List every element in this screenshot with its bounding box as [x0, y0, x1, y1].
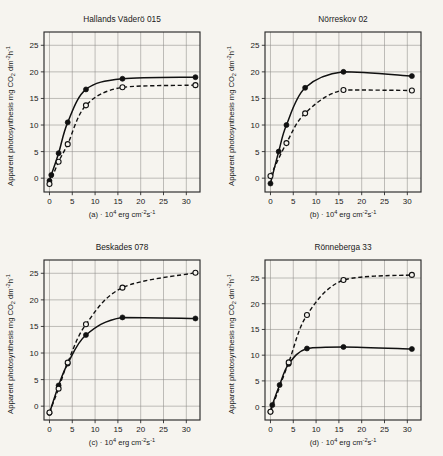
y-tick-label: 5	[34, 376, 39, 385]
data-point	[409, 347, 414, 352]
y-tick-label: 5	[34, 148, 39, 157]
y-axis-label: Apparent photosynthesis mg CO2 dm-2h-1	[226, 274, 237, 414]
x-tick-label: 10	[312, 425, 321, 434]
y-tick-label: 15	[30, 94, 39, 103]
x-tick-label: 5	[70, 425, 75, 434]
y-tick-label: 20	[251, 68, 260, 77]
data-point	[277, 383, 282, 388]
data-point	[193, 316, 198, 321]
y-tick-label: 20	[30, 296, 39, 305]
y-tick-label: 0	[255, 403, 260, 412]
y-tick-label: 10	[251, 121, 260, 130]
data-point	[341, 278, 346, 283]
data-point	[83, 332, 88, 337]
panel-title: Nörreskov 02	[318, 14, 368, 24]
y-axis-label: Apparent photosynthesis mg CO2 dm-2h-1	[226, 46, 237, 186]
x-tick-label: 20	[357, 197, 366, 206]
y-tick-label: 5	[255, 377, 260, 386]
y-tick-label: 5	[255, 148, 260, 157]
data-point	[56, 151, 61, 156]
data-point	[56, 159, 61, 164]
x-tick-label: 25	[159, 425, 168, 434]
x-tick-label: 25	[159, 197, 168, 206]
panel-title: Rönneberga 33	[314, 242, 372, 252]
panel-background	[221, 228, 442, 456]
chart-svg-a: Hallands Väderö 015051015202505101520253…	[0, 0, 221, 228]
panel-title: Hallands Väderö 015	[83, 14, 161, 24]
x-tick-label: 10	[91, 197, 100, 206]
data-point	[304, 346, 309, 351]
x-tick-label: 5	[291, 425, 296, 434]
x-tick-label: 30	[403, 425, 412, 434]
data-point	[83, 87, 88, 92]
data-point	[341, 69, 346, 74]
panel-background	[221, 0, 442, 228]
photosynthesis-figure: Hallands Väderö 015051015202505101520253…	[0, 0, 443, 456]
data-point	[83, 322, 88, 327]
data-point	[268, 181, 273, 186]
chart-panel-a: Hallands Väderö 015051015202505101520253…	[0, 0, 221, 228]
y-tick-label: 20	[30, 68, 39, 77]
y-tick-label: 10	[30, 121, 39, 130]
data-point	[268, 174, 273, 179]
y-tick-label: 15	[251, 94, 260, 103]
y-tick-label: 0	[255, 174, 260, 183]
chart-panel-d: Rönneberga 330510152025051015202530Appar…	[221, 228, 442, 456]
y-axis-label: Apparent photosynthesis mg CO2 dm-2h-1	[5, 274, 16, 414]
x-tick-label: 0	[268, 425, 273, 434]
x-tick-label: 20	[357, 425, 366, 434]
data-point	[193, 75, 198, 80]
data-point	[341, 87, 346, 92]
data-point	[193, 270, 198, 275]
data-point	[120, 76, 125, 81]
panel-background	[0, 0, 221, 228]
x-tick-label: 25	[380, 197, 389, 206]
x-tick-label: 20	[136, 425, 145, 434]
x-tick-label: 30	[182, 425, 191, 434]
x-tick-label: 0	[47, 197, 52, 206]
x-tick-label: 15	[113, 197, 122, 206]
data-point	[409, 272, 414, 277]
x-tick-label: 0	[47, 425, 52, 434]
data-point	[303, 85, 308, 90]
x-tick-label: 20	[136, 197, 145, 206]
x-tick-label: 15	[334, 425, 343, 434]
x-tick-label: 5	[291, 197, 296, 206]
y-tick-label: 15	[30, 322, 39, 331]
data-point	[284, 141, 289, 146]
y-tick-label: 20	[251, 300, 260, 309]
x-tick-label: 25	[380, 425, 389, 434]
data-point	[83, 103, 88, 108]
data-point	[276, 149, 281, 154]
chart-panel-c: Beskades 0780510152025051015202530Appare…	[0, 228, 221, 456]
y-tick-label: 25	[251, 41, 260, 50]
data-point	[409, 74, 414, 79]
x-tick-label: 0	[268, 197, 273, 206]
y-tick-label: 25	[30, 269, 39, 278]
x-tick-label: 30	[182, 197, 191, 206]
chart-svg-c: Beskades 0780510152025051015202530Appare…	[0, 228, 221, 456]
y-tick-label: 15	[251, 325, 260, 334]
y-tick-label: 25	[251, 274, 260, 283]
x-tick-label: 5	[70, 197, 75, 206]
data-point	[49, 172, 54, 177]
data-point	[120, 315, 125, 320]
data-point	[270, 403, 275, 408]
y-tick-label: 0	[34, 402, 39, 411]
data-point	[286, 360, 291, 365]
y-axis-label: Apparent photosynthesis mg CO2 dm-2h-1	[5, 46, 16, 186]
y-tick-label: 25	[30, 41, 39, 50]
x-tick-label: 15	[334, 197, 343, 206]
data-point	[120, 85, 125, 90]
chart-svg-d: Rönneberga 330510152025051015202530Appar…	[221, 228, 442, 456]
data-point	[47, 410, 52, 415]
chart-svg-b: Nörreskov 020510152025051015202530Appare…	[221, 0, 442, 228]
x-tick-label: 10	[91, 425, 100, 434]
x-tick-label: 15	[113, 425, 122, 434]
data-point	[65, 142, 70, 147]
data-point	[65, 120, 70, 125]
x-tick-label: 10	[312, 197, 321, 206]
y-tick-label: 10	[30, 349, 39, 358]
data-point	[284, 123, 289, 128]
data-point	[193, 83, 198, 88]
